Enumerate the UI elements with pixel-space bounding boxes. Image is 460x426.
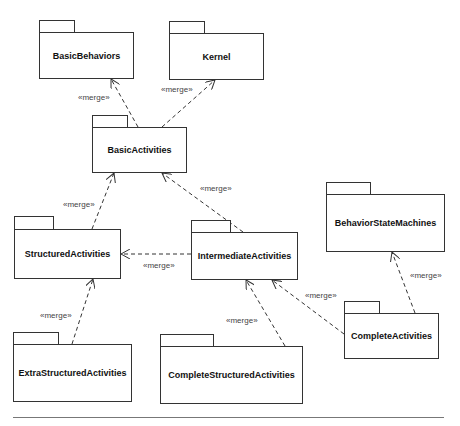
package-body: IntermediateActivities [191,232,298,280]
package-name: StructuredActivities [25,249,111,259]
edge-extrastructured-structured [72,279,93,344]
edge-structured-basicactivities [92,173,114,229]
edge-completestructured-intermediate [246,280,285,346]
package-name: BasicActivities [107,145,171,155]
package-body: BasicActivities [92,127,187,173]
merge-label-extrastructured: «merge» [40,311,72,320]
package-body: ExtraStructuredActivities [13,344,132,402]
horizontal-rule [13,417,444,418]
package-name: IntermediateActivities [198,251,292,261]
package-body: BasicBehaviors [39,32,134,79]
package-body: CompleteActivities [344,313,439,359]
merge-label-structured-basic: «merge» [63,200,95,209]
package-body: StructuredActivities [14,229,121,279]
package-body: BehaviorStateMachines [326,194,445,252]
package-tab [14,216,54,230]
merge-label-basicbehaviors: «merge» [78,93,110,102]
merge-label-intermediate-structured: «merge» [143,261,175,270]
package-name: ExtraStructuredActivities [18,368,126,378]
merge-label-kernel: «merge» [161,85,193,94]
merge-label-completeactivities-intermediate: «merge» [305,291,337,300]
package-name: BasicBehaviors [53,51,121,61]
merge-label-completestructured: «merge» [226,316,258,325]
merge-label-completeactivities-statemachines: «merge» [410,271,442,280]
merge-label-intermediate-basic: «merge» [200,184,232,193]
package-body: CompleteStructuredActivities [160,346,303,404]
edge-completeactivities-intermediate [272,280,344,334]
package-body: Kernel [169,33,264,80]
edge-completeactivities-statemachines [392,252,415,313]
package-name: BehaviorStateMachines [335,218,437,228]
package-name: Kernel [202,52,230,62]
package-name: CompleteActivities [351,331,432,341]
package-name: CompleteStructuredActivities [168,370,295,380]
